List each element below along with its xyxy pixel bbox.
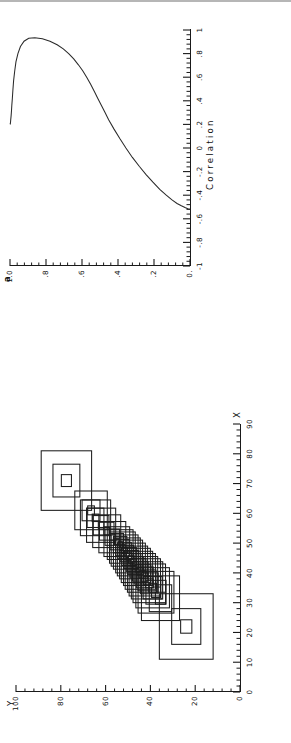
confidence-rectangle <box>159 594 213 660</box>
x-tick-label: 90 <box>245 415 254 433</box>
x-tick-label: 0 <box>195 139 204 157</box>
x-tick-label: 70 <box>245 475 254 493</box>
y-tick-label: .6 <box>77 270 86 300</box>
confidence-rectangle <box>181 620 192 633</box>
x-tick-label: 20 <box>245 623 254 641</box>
y-tick-label: .4 <box>113 270 122 300</box>
x-tick-label: .4 <box>195 92 204 110</box>
figure-nested-confidence-rectangles: 0102030405060708090020406080100 X Y <box>0 400 280 740</box>
confidence-rectangle <box>53 464 80 497</box>
x-tick-label: 0 <box>245 683 254 701</box>
x-tick-label: -.6 <box>195 210 204 228</box>
fig2-y-axis-title: Y <box>6 701 16 706</box>
alpha-curve <box>10 38 190 210</box>
fig1-y-axis-title: a <box>2 276 12 282</box>
confidence-rectangle <box>172 609 201 645</box>
scan-artifact-line <box>0 0 291 2</box>
x-tick-label: 1 <box>195 21 204 39</box>
x-tick-label: .6 <box>195 68 204 86</box>
confidence-rectangle <box>61 475 71 487</box>
y-tick-label: 60 <box>101 696 110 726</box>
y-tick-label: .2 <box>149 270 158 300</box>
x-tick-label: 10 <box>245 653 254 671</box>
y-tick-label: 40 <box>145 696 154 726</box>
x-tick-label: .2 <box>195 115 204 133</box>
x-tick-label: 80 <box>245 445 254 463</box>
x-tick-label: -1 <box>195 257 204 275</box>
figure-alpha-vs-correlation: -1-.8-.6-.4-.20.2.4.6.810..2.4.6.81.0 Co… <box>0 8 232 308</box>
y-tick-label: 80 <box>56 696 65 726</box>
y-tick-label: 0. <box>185 270 194 300</box>
confidence-rectangle <box>80 500 110 536</box>
y-tick-label: 0 <box>235 696 244 726</box>
x-tick-label: -.2 <box>195 163 204 181</box>
x-tick-label: 60 <box>245 504 254 522</box>
x-tick-label: .8 <box>195 45 204 63</box>
x-tick-label: 40 <box>245 564 254 582</box>
confidence-rectangle <box>87 508 104 527</box>
confidence-rectangle <box>99 522 114 540</box>
fig1-x-axis-title: Correlation <box>205 118 215 190</box>
confidence-rectangle <box>93 516 109 535</box>
y-tick-label: 20 <box>190 696 199 726</box>
x-tick-label: 30 <box>245 594 254 612</box>
fig2-x-axis-title: X <box>232 412 242 418</box>
y-tick-label: .8 <box>41 270 50 300</box>
x-tick-label: 50 <box>245 534 254 552</box>
confidence-rectangle <box>41 451 91 511</box>
confidence-rectangle-group <box>41 451 213 659</box>
fig2-plot-canvas <box>0 400 280 740</box>
y-tick-label: 1.0 <box>5 270 14 300</box>
x-tick-label: -.8 <box>195 233 204 251</box>
x-tick-label: -.4 <box>195 186 204 204</box>
